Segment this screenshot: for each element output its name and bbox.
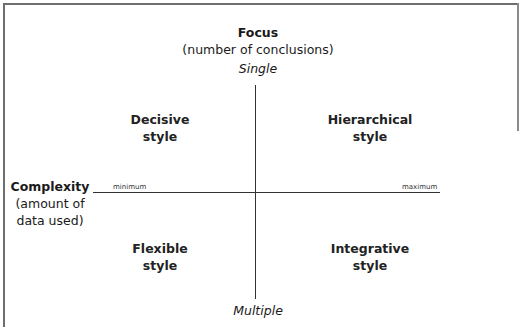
- quadrant-flexible-line2: style: [90, 257, 230, 274]
- complexity-axis-label-block: Complexity (amount of data used): [10, 178, 90, 229]
- axis-min-label: minimum: [113, 183, 146, 191]
- focus-bottom-label: Multiple: [160, 302, 356, 319]
- quadrant-decisive: Decisive style: [90, 111, 230, 145]
- complexity-axis-subtitle-line1: (amount of: [10, 195, 90, 212]
- quadrant-hierarchical-line1: Hierarchical: [300, 111, 440, 128]
- complexity-axis-subtitle-line2: data used): [10, 212, 90, 229]
- quadrant-decisive-line1: Decisive: [90, 111, 230, 128]
- axis-max-label: maximum: [402, 183, 437, 191]
- frame-top-border: [3, 3, 518, 5]
- quadrant-flexible-line1: Flexible: [90, 240, 230, 257]
- quadrant-flexible: Flexible style: [90, 240, 230, 274]
- quadrant-decisive-line2: style: [90, 128, 230, 145]
- horizontal-axis-line: [93, 192, 440, 193]
- quadrant-integrative-line2: style: [300, 257, 440, 274]
- quadrant-hierarchical-line2: style: [300, 128, 440, 145]
- quadrant-integrative-line1: Integrative: [300, 240, 440, 257]
- focus-top-label: Single: [160, 60, 356, 77]
- focus-axis-title: Focus: [160, 24, 356, 41]
- focus-axis-title-block: Focus (number of conclusions): [160, 24, 356, 58]
- complexity-axis-title: Complexity: [10, 178, 90, 195]
- quadrant-hierarchical: Hierarchical style: [300, 111, 440, 145]
- focus-axis-subtitle: (number of conclusions): [160, 41, 356, 58]
- frame-left-border: [3, 3, 5, 327]
- quadrant-integrative: Integrative style: [300, 240, 440, 274]
